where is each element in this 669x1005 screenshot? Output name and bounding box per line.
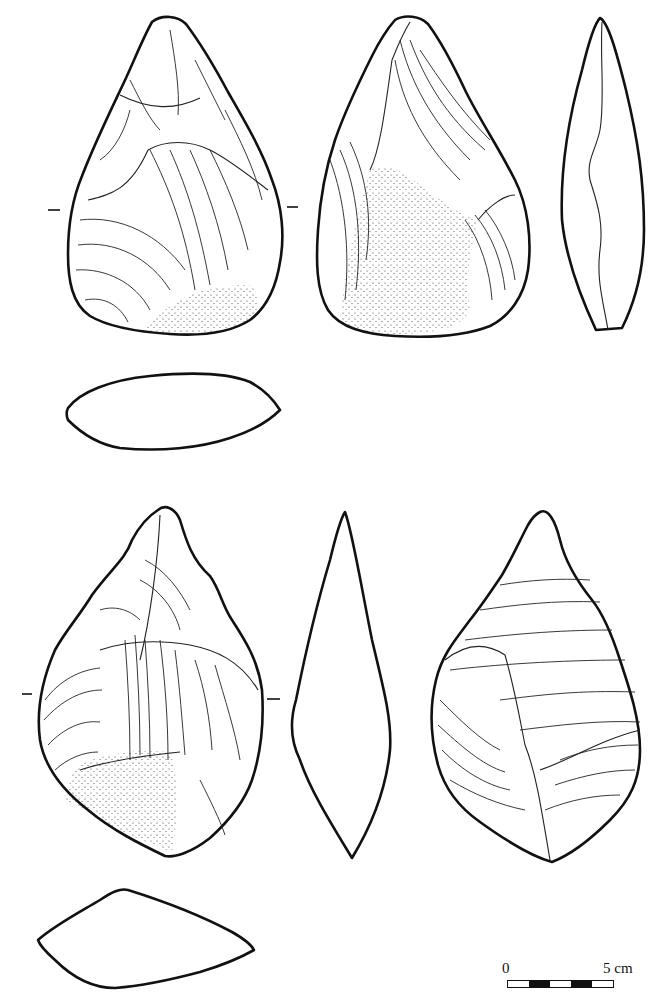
scale-bar [507, 980, 614, 988]
scale-end-label: 5 cm [603, 961, 633, 976]
handaxe-illustration [0, 0, 669, 1005]
scale-segment-3 [550, 981, 571, 987]
handaxe-2-cross-section [38, 889, 254, 988]
handaxe-2-face-a [22, 507, 280, 856]
scale-segment-2 [529, 981, 550, 987]
scale-segment-1 [508, 981, 529, 987]
handaxe-1-face-a [48, 17, 298, 335]
handaxe-2-face-b [432, 511, 640, 862]
handaxe-1-face-b [317, 17, 529, 337]
handaxe-1-cross-section [67, 374, 281, 450]
scale-start-label: 0 [502, 961, 510, 976]
scale-segment-5 [592, 981, 613, 987]
handaxe-1-profile [562, 18, 644, 330]
handaxe-2-profile [292, 512, 390, 858]
scale-segment-4 [571, 981, 592, 987]
